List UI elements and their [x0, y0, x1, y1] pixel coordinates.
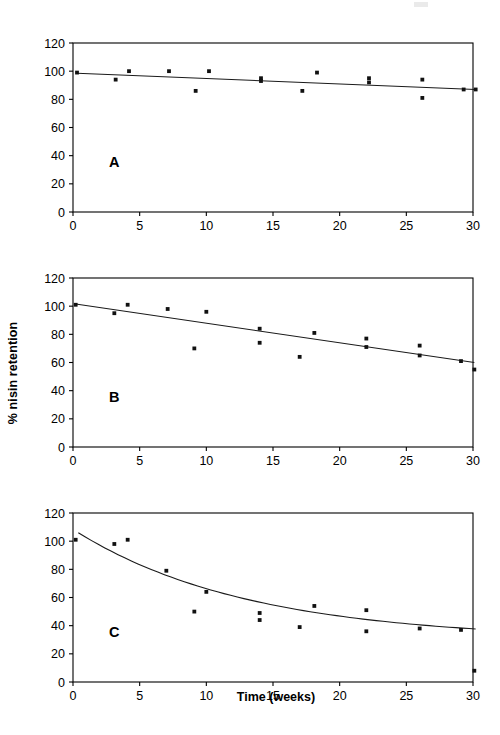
data-point — [194, 89, 198, 93]
data-point — [420, 96, 424, 100]
y-tick-label: 40 — [51, 619, 65, 633]
data-point — [114, 78, 118, 82]
y-tick-label: 120 — [44, 507, 65, 521]
panel-label-b: B — [109, 389, 119, 405]
y-tick-label: 120 — [44, 37, 65, 51]
data-point — [364, 337, 368, 341]
y-tick-label: 40 — [51, 384, 65, 398]
panel-label-c: C — [109, 624, 120, 640]
data-point — [204, 310, 208, 314]
y-tick-label: 60 — [51, 356, 65, 370]
data-point — [312, 331, 316, 335]
data-point — [126, 303, 130, 307]
data-point — [364, 345, 368, 349]
x-tick-label: 0 — [70, 219, 77, 233]
panel-c: 020406080100120051015202530C — [0, 478, 500, 713]
y-tick-label: 40 — [51, 149, 65, 163]
scan-artifact — [414, 2, 428, 7]
data-point — [472, 669, 476, 673]
data-point — [192, 347, 196, 351]
data-point — [74, 538, 78, 542]
data-point — [112, 311, 116, 315]
trend-line — [78, 533, 475, 629]
data-point — [112, 542, 116, 546]
panel-a: 020406080100120051015202530A — [0, 8, 500, 243]
panel-label-a: A — [109, 154, 120, 170]
y-tick-label: 80 — [51, 563, 65, 577]
y-tick-label: 80 — [51, 328, 65, 342]
data-point — [258, 341, 262, 345]
x-tick-label: 0 — [70, 454, 77, 468]
data-point — [127, 69, 131, 73]
data-point — [312, 604, 316, 608]
data-point — [126, 538, 130, 542]
data-point — [258, 327, 262, 331]
y-axis-title: % nisin retention — [0, 288, 28, 458]
plot-frame — [73, 43, 473, 212]
trend-line — [77, 73, 476, 89]
y-tick-label: 100 — [44, 65, 65, 79]
y-tick-label: 100 — [44, 300, 65, 314]
x-axis-title: Time (weeks) — [0, 690, 500, 704]
data-point — [418, 354, 422, 358]
data-point — [315, 71, 319, 75]
data-point — [462, 88, 466, 92]
data-point — [420, 78, 424, 82]
y-tick-label: 100 — [44, 535, 65, 549]
data-point — [418, 344, 422, 348]
data-point — [364, 629, 368, 633]
trend-line — [76, 304, 475, 362]
x-tick-label: 25 — [399, 219, 413, 233]
plot-area-c: 020406080100120051015202530C — [0, 478, 500, 713]
data-point — [259, 79, 263, 83]
data-point — [167, 69, 171, 73]
y-tick-label: 0 — [58, 206, 65, 220]
x-tick-label: 25 — [399, 454, 413, 468]
x-axis-title-text: Time (weeks) — [237, 690, 315, 704]
data-point — [474, 88, 478, 92]
x-tick-label: 20 — [333, 219, 347, 233]
y-tick-label: 60 — [51, 121, 65, 135]
y-tick-label: 20 — [51, 647, 65, 661]
x-tick-label: 15 — [266, 219, 280, 233]
x-tick-label: 20 — [333, 454, 347, 468]
y-tick-label: 0 — [58, 676, 65, 690]
data-point — [367, 76, 371, 80]
data-point — [418, 627, 422, 631]
data-point — [298, 355, 302, 359]
y-tick-label: 60 — [51, 591, 65, 605]
data-point — [207, 69, 211, 73]
y-tick-label: 120 — [44, 272, 65, 286]
y-axis-title-text: % nisin retention — [6, 322, 20, 424]
data-point — [298, 625, 302, 629]
data-point — [75, 71, 79, 75]
data-point — [258, 611, 262, 615]
data-point — [164, 569, 168, 573]
plot-frame — [73, 278, 473, 447]
x-tick-label: 5 — [136, 454, 143, 468]
data-point — [364, 608, 368, 612]
x-tick-label: 10 — [199, 219, 213, 233]
data-point — [192, 610, 196, 614]
data-point — [166, 307, 170, 311]
y-tick-label: 0 — [58, 441, 65, 455]
plot-frame — [73, 513, 473, 682]
figure-nisin-retention: 020406080100120051015202530A 02040608010… — [0, 0, 500, 735]
data-point — [300, 89, 304, 93]
data-point — [74, 303, 78, 307]
x-tick-label: 15 — [266, 454, 280, 468]
y-tick-label: 20 — [51, 412, 65, 426]
data-point — [258, 618, 262, 622]
x-tick-label: 30 — [466, 219, 480, 233]
plot-area-a: 020406080100120051015202530A — [0, 8, 500, 243]
data-point — [367, 81, 371, 85]
plot-area-b: 020406080100120051015202530B — [0, 243, 500, 478]
data-point — [472, 368, 476, 372]
x-tick-label: 5 — [136, 219, 143, 233]
data-point — [459, 628, 463, 632]
y-tick-label: 80 — [51, 93, 65, 107]
data-point — [204, 590, 208, 594]
panel-b: 020406080100120051015202530B — [0, 243, 500, 478]
x-tick-label: 10 — [199, 454, 213, 468]
x-tick-label: 30 — [466, 454, 480, 468]
